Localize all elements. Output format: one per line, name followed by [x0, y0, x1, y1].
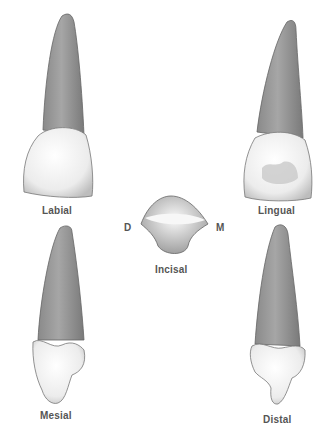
label-distal-side: D — [124, 222, 131, 233]
label-mesial: Mesial — [40, 410, 72, 421]
mesial-view — [33, 226, 85, 404]
labial-view — [24, 14, 93, 197]
lingual-view — [244, 20, 312, 200]
label-mesial-side: M — [216, 222, 225, 233]
distal-view — [250, 225, 305, 404]
incisal-view — [141, 196, 208, 254]
label-distal: Distal — [263, 414, 291, 425]
label-incisal: Incisal — [155, 264, 188, 275]
label-lingual: Lingual — [258, 205, 295, 216]
label-labial: Labial — [42, 205, 72, 216]
